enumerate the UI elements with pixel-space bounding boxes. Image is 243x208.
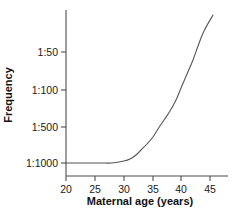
y-tick-label-1: 1:100 xyxy=(32,84,58,96)
y-axis-title: Frequency xyxy=(2,66,14,123)
chart-plot-area: 1:50 1:100 1:500 1:1000 20 25 30 35 40 4… xyxy=(0,0,243,208)
x-tick-label-3: 35 xyxy=(147,183,159,195)
data-series-line xyxy=(66,15,213,163)
x-tick-label-4: 40 xyxy=(175,183,187,195)
x-tick-label-0: 20 xyxy=(60,183,72,195)
x-tick-label-5: 45 xyxy=(204,183,216,195)
x-axis-title: Maternal age (years) xyxy=(87,195,194,207)
y-tick-label-3: 1:1000 xyxy=(26,157,58,169)
chart-figure: 1:50 1:100 1:500 1:1000 20 25 30 35 40 4… xyxy=(0,0,243,208)
x-tick-label-2: 30 xyxy=(118,183,130,195)
y-tick-label-0: 1:50 xyxy=(38,46,59,58)
x-tick-label-1: 25 xyxy=(89,183,101,195)
y-tick-label-2: 1:500 xyxy=(32,121,58,133)
